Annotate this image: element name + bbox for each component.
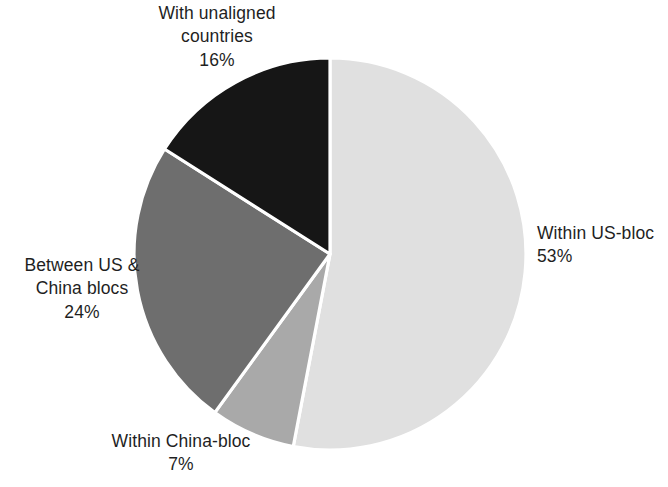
slice-label-within-us-bloc: Within US-bloc 53%: [537, 222, 667, 269]
slice-label-within-china-bloc: Within China-bloc 7%: [86, 430, 276, 477]
slice-label-line-1: Within US-bloc: [537, 222, 667, 245]
slice-label-line-1: Between US &: [2, 254, 162, 277]
pie-chart: With unaligned countries 16% Between US …: [0, 0, 668, 487]
slice-label-value: 7%: [86, 453, 276, 476]
slice-label-line-2: countries: [127, 25, 307, 48]
slice-label-line-1: Within China-bloc: [86, 430, 276, 453]
slice-label-line-1: With unaligned: [127, 2, 307, 25]
pie-slice-group: [134, 58, 526, 450]
slice-label-value: 24%: [2, 301, 162, 324]
slice-label-value: 53%: [537, 245, 667, 268]
slice-label-value: 16%: [127, 49, 307, 72]
slice-label-between-us-and-china-blocs: Between US & China blocs 24%: [2, 254, 162, 324]
slice-label-with-unaligned-countries: With unaligned countries 16%: [127, 2, 307, 72]
slice-label-line-2: China blocs: [2, 277, 162, 300]
